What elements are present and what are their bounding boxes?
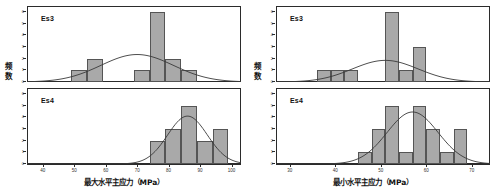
panel-tag-es4-left: Es4 [41,97,54,104]
bars-es4-left [27,88,241,164]
bar [331,70,345,82]
y-axis-label-char-2: 数 [2,72,14,82]
bar [181,70,197,82]
bar [358,152,372,164]
bar [87,59,103,82]
y-tick-label: 6 [264,10,273,14]
y-axis-label-char-1: 频 [2,62,14,72]
panel-es4-left: Es4 0123456 [27,88,241,164]
y-tick-label: 5 [15,22,24,26]
bar [385,12,399,82]
x-tick-label: 40 [328,168,342,173]
bar [372,129,386,164]
y-tick-label: 1 [264,150,273,154]
bars-es3-right [276,6,490,82]
x-axis-line-left [27,164,241,165]
x-tick-label: 30 [283,168,297,173]
bar [197,141,213,164]
y-tick-label: 2 [15,139,24,143]
bar [71,70,87,82]
x-axis-title-left: 最大水平主应力（MPa） [0,176,248,187]
y-tick-label: 4 [264,33,273,37]
x-tick-label: 70 [130,168,144,173]
x-axis-title-right: 最小水平主应力（MPa） [249,176,497,187]
y-tick-label: 6 [264,92,273,96]
chart-group-max-stress: 频 数 Es3 0123456 Es4 0123456 405060708090… [0,0,248,191]
x-tick [106,164,107,167]
panel-es4-right: Es4 0123456 [276,88,490,164]
panel-tag-es4-right: Es4 [290,97,303,104]
y-tick-label: 1 [15,150,24,154]
panel-es3-right: Es3 0123456 [276,6,490,82]
y-tick-label: 5 [15,104,24,108]
y-axis-label-char-2: 数 [251,72,263,82]
x-tick [335,164,336,167]
x-tick [169,164,170,167]
bar [413,106,427,164]
x-tick [290,164,291,167]
y-tick-label: 6 [15,10,24,14]
y-ticks-es3-right: 0123456 [275,6,276,82]
bar [440,152,454,164]
y-tick-label: 0 [264,80,273,84]
x-axis-right: 3040506070 [276,164,490,174]
y-tick-label: 2 [264,57,273,61]
bars-es3-left [27,6,241,82]
y-ticks-es4-left: 0123456 [26,88,27,164]
bar [150,141,166,164]
y-tick-label: 0 [264,162,273,166]
x-tick-label: 100 [225,168,239,173]
x-tick [74,164,75,167]
x-tick [232,164,233,167]
x-tick [43,164,44,167]
bar [317,70,331,82]
x-axis-left: 405060708090100 [27,164,241,174]
bar [385,106,399,164]
y-tick-label: 0 [15,162,24,166]
y-tick-label: 5 [264,22,273,26]
bar [165,59,181,82]
x-tick-label: 90 [193,168,207,173]
y-tick-label: 3 [264,127,273,131]
x-tick-label: 60 [419,168,433,173]
x-tick [426,164,427,167]
y-tick-label: 1 [264,68,273,72]
panel-tag-es3-left: Es3 [41,15,54,22]
y-tick-label: 1 [15,68,24,72]
bar [134,70,150,82]
y-ticks-es4-right: 0123456 [275,88,276,164]
x-tick-label: 40 [36,168,50,173]
bar [344,70,358,82]
y-tick-label: 3 [15,45,24,49]
y-axis-label-right: 频 数 [251,62,263,81]
bar [213,129,229,164]
y-ticks-es3-left: 0123456 [26,6,27,82]
x-tick-label: 50 [374,168,388,173]
panel-tag-es3-right: Es3 [290,15,303,22]
bar [426,129,440,164]
x-axis-line-right [276,164,490,165]
x-tick-label: 80 [162,168,176,173]
bar [399,152,413,164]
y-axis-label-char-1: 频 [251,62,263,72]
y-tick-label: 3 [15,127,24,131]
y-axis-label-left: 频 数 [2,62,14,81]
bars-es4-right [276,88,490,164]
bar [181,106,197,164]
y-tick-label: 2 [264,139,273,143]
figure-root: 频 数 Es3 0123456 Es4 0123456 405060708090… [0,0,497,191]
y-tick-label: 0 [15,80,24,84]
bar [165,129,181,164]
y-tick-label: 6 [15,92,24,96]
x-tick [200,164,201,167]
y-tick-label: 4 [15,33,24,37]
y-tick-label: 3 [264,45,273,49]
bar [399,70,413,82]
chart-group-min-stress: 频 数 Es3 0123456 Es4 0123456 3040506070 最… [249,0,497,191]
y-tick-label: 4 [264,115,273,119]
bar [413,47,427,82]
y-tick-label: 5 [264,104,273,108]
y-tick-label: 4 [15,115,24,119]
panel-es3-left: Es3 0123456 [27,6,241,82]
x-tick-label: 60 [99,168,113,173]
